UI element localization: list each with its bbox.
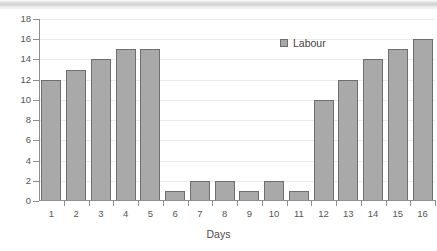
y-axis-line (39, 19, 40, 201)
y-axis-tick (33, 161, 39, 162)
y-axis-tick (33, 19, 39, 20)
plot-area (39, 19, 435, 201)
y-axis-tick-label: 14 (20, 54, 31, 63)
x-axis-tick-label: 3 (89, 209, 114, 219)
gridline (39, 19, 435, 20)
x-axis-tick (262, 201, 263, 206)
bar (140, 49, 160, 201)
x-axis-tick (163, 201, 164, 206)
legend-swatch-labour (280, 39, 288, 47)
y-axis-tick-label: 18 (20, 14, 31, 23)
y-axis-tick (33, 140, 39, 141)
bar (41, 80, 61, 201)
gridline (39, 39, 435, 40)
x-axis-tick-label: 4 (113, 209, 138, 219)
y-axis-tick (33, 201, 39, 202)
x-axis-tick (188, 201, 189, 206)
y-axis-tick-label: 16 (20, 34, 31, 43)
bar (363, 59, 383, 201)
x-axis-tick (64, 201, 65, 206)
bar (264, 181, 284, 201)
x-axis-tick (212, 201, 213, 206)
x-axis-tick-label: 6 (163, 209, 188, 219)
y-axis-tick (33, 100, 39, 101)
bar (338, 80, 358, 201)
x-axis-tick-label: 5 (138, 209, 163, 219)
x-axis-tick-label: 14 (361, 209, 386, 219)
y-axis-tick-label: 0 (26, 196, 31, 205)
bar (215, 181, 235, 201)
bar (388, 49, 408, 201)
x-axis-tick-label: 16 (410, 209, 435, 219)
y-axis-tick (33, 59, 39, 60)
x-axis-tick (237, 201, 238, 206)
x-axis-tick (138, 201, 139, 206)
y-axis-tick-label: 8 (26, 115, 31, 124)
x-axis-tick (311, 201, 312, 206)
x-axis-tick-label: 9 (237, 209, 262, 219)
x-axis-tick (410, 201, 411, 206)
x-axis-tick-label: 7 (188, 209, 213, 219)
x-axis-tick-label: 10 (262, 209, 287, 219)
y-axis-tick-label: 4 (26, 156, 31, 165)
bar (116, 49, 136, 201)
x-axis-tick-label: 8 (212, 209, 237, 219)
x-axis-tick-label: 13 (336, 209, 361, 219)
x-axis-tick (89, 201, 90, 206)
x-axis-tick (435, 201, 436, 206)
x-axis-tick-label: 11 (287, 209, 312, 219)
y-axis-tick (33, 120, 39, 121)
bar (91, 59, 111, 201)
x-axis-tick-label: 15 (386, 209, 411, 219)
legend: Labour (280, 38, 326, 48)
x-axis-tick-label: 1 (39, 209, 64, 219)
x-axis-tick (361, 201, 362, 206)
x-axis-tick (336, 201, 337, 206)
y-axis-tick-label: 12 (20, 75, 31, 84)
x-axis-tick (113, 201, 114, 206)
y-axis-tick-label: 2 (26, 176, 31, 185)
x-axis-tick-label: 12 (311, 209, 336, 219)
x-axis-tick (287, 201, 288, 206)
y-axis-tick (33, 39, 39, 40)
x-axis-tick (386, 201, 387, 206)
legend-label-labour: Labour (293, 38, 326, 48)
bar-chart: 024681012141618 12345678910111213141516 … (0, 0, 437, 251)
bar (190, 181, 210, 201)
x-axis-title: Days (0, 228, 437, 240)
y-axis-tick-label: 6 (26, 135, 31, 144)
bar (413, 39, 433, 201)
x-axis-tick-label: 2 (64, 209, 89, 219)
y-axis-tick-label: 10 (20, 95, 31, 104)
bar (66, 70, 86, 201)
bar (314, 100, 334, 201)
y-axis-tick-labels: 024681012141618 (0, 0, 31, 251)
y-axis-tick (33, 181, 39, 182)
y-axis-tick (33, 80, 39, 81)
